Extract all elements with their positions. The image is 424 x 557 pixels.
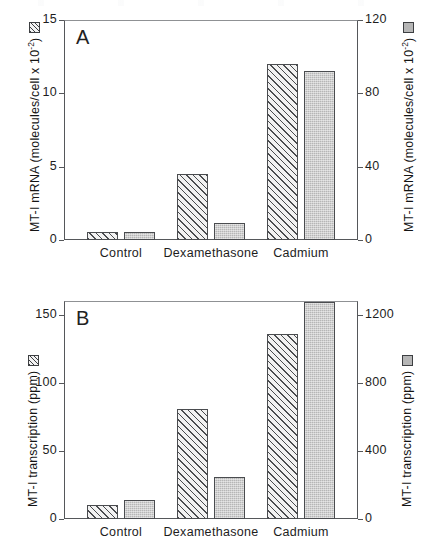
- tick-label: 80: [365, 85, 380, 99]
- bar-a-control-solid: [124, 232, 155, 240]
- tick-mark: [59, 240, 64, 241]
- bar-a-dexamethasone-solid: [214, 223, 245, 240]
- y-axis-title-a-right-text: MT-I mRNA (molecules/cell x 10-2): [400, 38, 416, 232]
- x-label-dexamethasone: Dexamethasone: [164, 246, 259, 260]
- y-axis-title-b-left-text: MT-I transcription (ppm): [26, 371, 40, 507]
- tick-mark: [358, 451, 363, 452]
- bar-b-dexamethasone-solid: [214, 477, 245, 519]
- legend-swatch-solid-icon: [403, 22, 414, 33]
- legend-swatch-hatched-icon: [28, 355, 39, 366]
- y-axis-title-a-right: MT-I mRNA (molecules/cell x 10-2): [400, 22, 416, 232]
- tick-mark: [59, 519, 64, 520]
- tick-mark: [358, 93, 363, 94]
- tick-mark: [358, 240, 363, 241]
- tick-label: 800: [365, 375, 387, 389]
- x-label-cadmium: Cadmium: [273, 525, 329, 539]
- x-label-control: Control: [100, 525, 142, 539]
- legend-swatch-hatched-icon: [29, 22, 40, 33]
- y-axis-title-b-left: MT-I transcription (ppm): [26, 355, 40, 507]
- tick-label: 0: [50, 511, 57, 525]
- bar-b-cadmium-hatched: [267, 334, 298, 519]
- tick-label: 0: [50, 232, 57, 246]
- bar-b-control-hatched: [87, 505, 118, 519]
- tick-mark: [358, 20, 363, 21]
- tick-mark: [358, 167, 363, 168]
- tick-label: 5: [50, 159, 57, 173]
- x-axis-labels-b: Control Dexamethasone Cadmium: [64, 525, 358, 545]
- tick-label: 0: [365, 511, 372, 525]
- tick-mark: [358, 383, 363, 384]
- bar-a-dexamethasone-hatched: [177, 174, 208, 240]
- bar-a-cadmium-solid: [304, 71, 335, 240]
- x-label-cadmium: Cadmium: [273, 246, 329, 260]
- tick-mark: [358, 519, 363, 520]
- tick-label: 400: [365, 443, 387, 457]
- bar-a-cadmium-hatched: [267, 64, 298, 240]
- exponent: -2: [26, 42, 36, 50]
- y-axis-title-b-right: MT-I transcription (ppm): [400, 355, 414, 507]
- tick-label: 150: [35, 307, 57, 321]
- x-axis-labels-a: Control Dexamethasone Cadmium: [64, 246, 358, 266]
- panel-a: A 0 5 10 15 0 40 80: [0, 0, 424, 278]
- y-axis-title-a-left: MT-I mRNA (molecules/cell x 10-2): [26, 22, 42, 232]
- tick-label: 120: [365, 12, 387, 26]
- tick-label: 50: [42, 443, 57, 457]
- x-label-dexamethasone: Dexamethasone: [164, 525, 259, 539]
- bar-b-dexamethasone-hatched: [177, 409, 208, 519]
- tick-label: 15: [42, 12, 57, 26]
- bar-b-cadmium-solid: [304, 302, 335, 519]
- bar-b-control-solid: [124, 500, 155, 519]
- y-axis-title-b-right-text: MT-I transcription (ppm): [400, 371, 414, 507]
- tick-mark: [358, 315, 363, 316]
- panel-b: B 0 50 100 150 0 400 800: [0, 279, 424, 557]
- tick-label: 0: [365, 232, 372, 246]
- tick-label: 1200: [365, 307, 394, 321]
- bar-a-control-hatched: [87, 232, 118, 240]
- x-label-control: Control: [100, 246, 142, 260]
- exponent: -2: [400, 42, 410, 50]
- bar-group-b: [64, 301, 358, 519]
- tick-label: 40: [365, 159, 380, 173]
- tick-label: 10: [42, 85, 57, 99]
- y-axis-title-a-left-text: MT-I mRNA (molecules/cell x 10-2): [26, 38, 42, 232]
- bar-group-a: [64, 20, 358, 240]
- legend-swatch-solid-icon: [402, 355, 413, 366]
